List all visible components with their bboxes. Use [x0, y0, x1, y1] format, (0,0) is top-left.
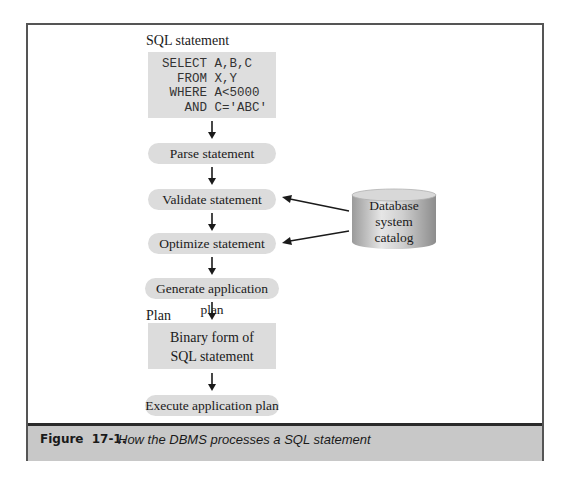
arrow-to-optimize-icon: [290, 231, 349, 241]
arrow-to-validate-icon: [290, 199, 349, 211]
caption-bar: Figure 17-1. How the DBMS processes a SQ…: [28, 423, 542, 461]
catalog-arrows: [28, 25, 546, 425]
figure-caption: How the DBMS processes a SQL statement: [118, 432, 371, 447]
figure-number: Figure 17-1.: [40, 432, 126, 446]
figure-frame: SQL statement SELECT A,B,C FROM X,Y WHER…: [26, 23, 544, 461]
